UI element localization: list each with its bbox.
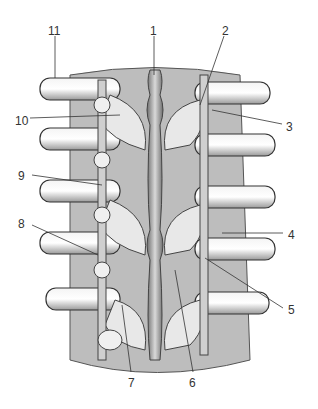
label-11: 11 bbox=[48, 25, 60, 37]
label-8: 8 bbox=[18, 218, 25, 230]
anatomy-figure: 1 2 3 4 5 6 7 8 9 10 11 bbox=[0, 0, 318, 409]
label-9: 9 bbox=[18, 170, 25, 182]
spine-illustration bbox=[0, 0, 318, 409]
label-10: 10 bbox=[15, 115, 28, 127]
label-7: 7 bbox=[128, 377, 135, 389]
label-3: 3 bbox=[286, 121, 293, 133]
label-4: 4 bbox=[288, 229, 295, 241]
label-2: 2 bbox=[222, 25, 229, 37]
label-5: 5 bbox=[288, 304, 295, 316]
label-1: 1 bbox=[150, 25, 157, 37]
label-6: 6 bbox=[189, 377, 196, 389]
